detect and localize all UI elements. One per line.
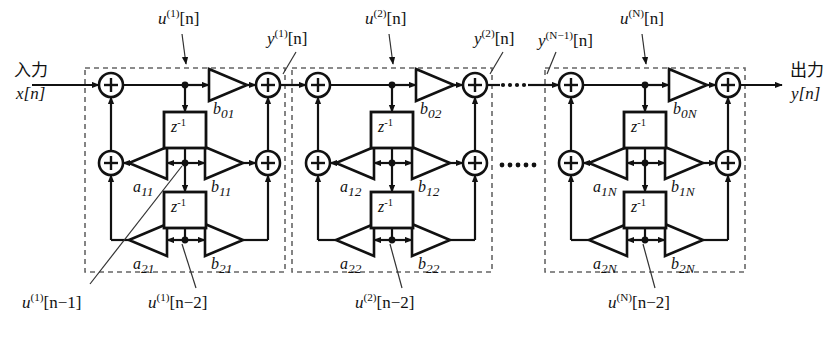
gain-a21 (129, 224, 167, 256)
signal-flow-svg (0, 0, 835, 338)
node-label-2: u(2)[n] (365, 8, 406, 28)
state-label-1-2: u(1)[n−2] (148, 292, 208, 312)
node-label-N: u(N)[n] (620, 8, 664, 28)
junction-1-mid (182, 160, 189, 167)
delay-label-N-1: z-1 (631, 117, 646, 136)
gain-a22 (336, 224, 374, 256)
junction-1-top (182, 82, 189, 89)
gain-a1N (589, 147, 627, 179)
gain-b22 (412, 224, 450, 256)
delay-label-2-2: z-1 (378, 197, 393, 216)
coef-label-a21: a21 (133, 256, 154, 276)
coef-label-b11: b11 (211, 179, 231, 199)
gain-a12 (336, 147, 374, 179)
input-label-jp: 入力 (14, 62, 48, 80)
coef-label-a2N: a2N (593, 256, 617, 276)
coef-label-b22: b22 (418, 256, 439, 276)
output-signal-label: y[n] (791, 85, 820, 103)
in-label-N: y(N−1)[n] (538, 30, 593, 50)
junction-2-top (389, 82, 396, 89)
gain-b1N (665, 147, 703, 179)
junction-2-bot (389, 237, 396, 244)
node-label-1: u(1)[n] (158, 8, 199, 28)
gain-b01 (209, 69, 247, 101)
junction-2-mid (389, 160, 396, 167)
figure-root: 入力 x[n] 出力 y[n] u(1)[n] y(1)[n] b01 b11 … (0, 0, 835, 338)
coef-label-a1N: a1N (593, 179, 617, 199)
coef-label-b2N: b2N (671, 256, 695, 276)
junction-N-mid (642, 160, 649, 167)
coef-label-b21: b21 (211, 256, 232, 276)
coef-label-b0N: b0N (673, 101, 697, 121)
output-label-jp: 出力 (790, 62, 824, 80)
gain-b11 (205, 147, 243, 179)
gain-a11 (129, 147, 167, 179)
coef-label-b02: b02 (420, 101, 441, 121)
junction-1-bot (182, 237, 189, 244)
gain-a2N (589, 224, 627, 256)
out-label-1: y(1)[n] (267, 28, 307, 48)
junction-N-bot (642, 237, 649, 244)
gain-b21 (205, 224, 243, 256)
coef-label-a12: a12 (340, 179, 361, 199)
state-label-N-2: u(N)[n−2] (608, 292, 670, 312)
delay-label-N-2: z-1 (631, 197, 646, 216)
coef-label-a22: a22 (340, 256, 361, 276)
coef-label-b12: b12 (418, 179, 439, 199)
gain-b0N (669, 69, 707, 101)
state-label-1-1: u(1)[n−1] (22, 292, 82, 312)
delay-label-1-1: z-1 (171, 117, 186, 136)
coef-label-b1N: b1N (671, 179, 695, 199)
gain-b12 (412, 147, 450, 179)
state-label-2-2: u(2)[n−2] (355, 292, 415, 312)
coef-label-b01: b01 (213, 101, 234, 121)
gain-b2N (665, 224, 703, 256)
delay-label-1-2: z-1 (171, 197, 186, 216)
delay-label-2-1: z-1 (378, 117, 393, 136)
input-signal-label: x[n] (16, 85, 45, 103)
coef-label-a11: a11 (133, 179, 153, 199)
junction-N-top (642, 82, 649, 89)
out-label-2: y(2)[n] (474, 28, 514, 48)
gain-b02 (416, 69, 454, 101)
